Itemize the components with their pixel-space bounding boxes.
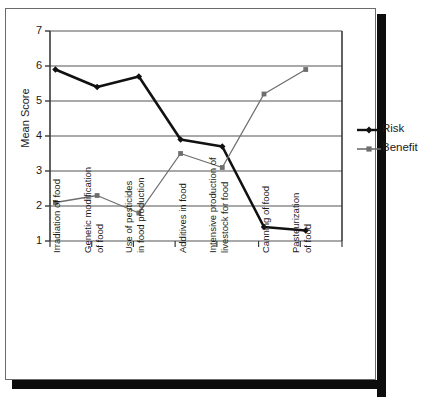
x-axis-category-label: Irradiation of food xyxy=(51,179,63,253)
x-axis-category-label: Pasteurization of food xyxy=(290,193,313,253)
legend-item-risk[interactable]: Risk xyxy=(357,118,418,137)
legend-marker-icon-benefit xyxy=(357,141,381,153)
data-point-marker-benefit xyxy=(178,151,183,156)
legend-marker-icon-risk xyxy=(357,122,381,134)
page-drop-shadow-right xyxy=(377,14,386,397)
legend-item-label: Risk xyxy=(382,122,404,134)
data-point-marker-benefit xyxy=(262,92,267,97)
data-point-marker-benefit xyxy=(303,67,308,72)
chart-legend: RiskBenefit xyxy=(357,118,418,156)
figure-root: Mean Score 7654321 Irradiation of foodGe… xyxy=(0,0,429,397)
x-axis-category-label: Intensive production of livestock for fo… xyxy=(207,157,230,253)
line-chart: Mean Score 7654321 Irradiation of foodGe… xyxy=(0,0,376,389)
x-axis-category-label: Genetic modification of food xyxy=(82,167,105,253)
x-axis-category-label: Canning of food xyxy=(260,186,272,253)
x-axis-category-label: Additives in food xyxy=(177,183,189,253)
legend-item-label: Benefit xyxy=(382,141,418,153)
x-axis-category-label: Use of pesticides in food production xyxy=(123,177,146,253)
legend-item-benefit[interactable]: Benefit xyxy=(357,137,418,156)
